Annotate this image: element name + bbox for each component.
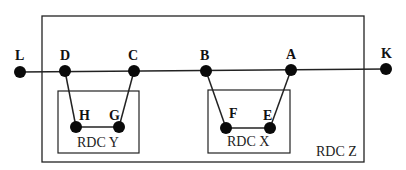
edge-b-f xyxy=(206,71,226,128)
node-c xyxy=(128,65,140,77)
label-g: G xyxy=(109,108,120,123)
node-l xyxy=(14,66,26,78)
label-e: E xyxy=(263,108,272,123)
node-e xyxy=(264,122,276,134)
node-a xyxy=(285,64,297,76)
label-rdc-x: RDC X xyxy=(227,134,269,149)
label-rdc-z: RDC Z xyxy=(316,144,357,159)
label-k: K xyxy=(381,46,392,61)
node-b xyxy=(200,65,212,77)
label-d: D xyxy=(60,48,70,63)
edges xyxy=(20,69,386,128)
node-d xyxy=(59,65,71,77)
label-rdc-y: RDC Y xyxy=(77,135,119,150)
label-f: F xyxy=(229,106,238,121)
label-h: H xyxy=(79,108,90,123)
label-a: A xyxy=(286,47,297,62)
edge-d-h xyxy=(65,71,76,127)
label-l: L xyxy=(15,48,24,63)
label-c: C xyxy=(128,48,138,63)
network-diagram: L D C B A K H G F E RDC Y RDC X RDC Z xyxy=(0,0,406,170)
node-f xyxy=(220,122,232,134)
edge-e-a xyxy=(270,70,291,128)
edge-g-c xyxy=(119,71,134,127)
node-k xyxy=(380,63,392,75)
label-b: B xyxy=(200,48,209,63)
